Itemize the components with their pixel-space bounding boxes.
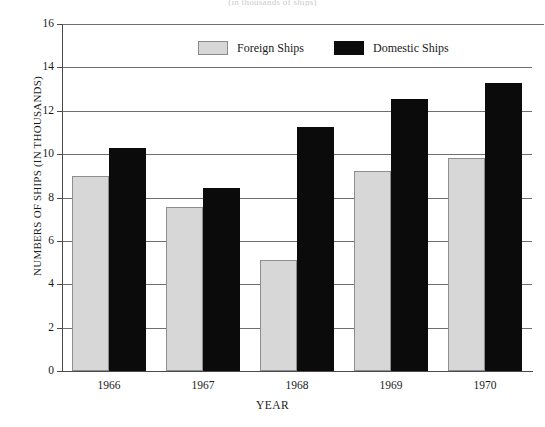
x-tick-label-1970: 1970 [450, 379, 520, 391]
y-tick-mark-14 [57, 67, 62, 68]
y-tick-label-10: 10 [14, 148, 54, 160]
legend-label-domestic: Domestic Ships [373, 41, 449, 56]
plot-area [62, 24, 532, 371]
bar-1970-foreign [448, 158, 485, 371]
chart-legend: Foreign ShipsDomestic Ships [198, 40, 449, 56]
y-axis-tick-marks [57, 24, 63, 372]
y-axis-tick-labels: 1614121086420 [10, 24, 54, 372]
bar-1968-foreign [260, 260, 297, 371]
y-tick-label-14: 14 [14, 61, 54, 73]
y-tick-label-16: 16 [14, 18, 54, 30]
y-tick-mark-8 [57, 198, 62, 199]
bar-1968-domestic [297, 127, 334, 371]
y-tick-label-2: 2 [14, 322, 54, 334]
y-tick-mark-6 [57, 241, 62, 242]
y-tick-label-0: 0 [14, 365, 54, 377]
x-axis-title: YEAR [0, 399, 545, 411]
bar-1966-foreign [72, 176, 109, 371]
y-tick-mark-4 [57, 284, 62, 285]
chart-title: (in thousands of ships) [0, 0, 545, 6]
legend-item-foreign: Foreign Ships [198, 41, 304, 56]
gridline-14 [62, 67, 532, 68]
bar-1967-domestic [203, 188, 240, 371]
legend-item-domestic: Domestic Ships [334, 41, 449, 56]
y-tick-mark-16 [57, 24, 62, 25]
x-tick-label-1966: 1966 [74, 379, 144, 391]
gridline-12 [62, 111, 532, 112]
x-tick-label-1968: 1968 [262, 379, 332, 391]
bar-chart-figure: (in thousands of ships) NUMBERS OF SHIPS… [0, 0, 545, 427]
y-tick-label-4: 4 [14, 278, 54, 290]
bar-1970-domestic [485, 83, 522, 371]
x-tick-label-1967: 1967 [168, 379, 238, 391]
y-tick-mark-12 [57, 111, 62, 112]
legend-swatch-foreign-icon [198, 41, 228, 55]
bar-1966-domestic [109, 148, 146, 371]
y-tick-mark-10 [57, 154, 62, 155]
y-tick-label-6: 6 [14, 235, 54, 247]
y-tick-mark-0 [57, 371, 62, 372]
x-tick-label-1969: 1969 [356, 379, 426, 391]
y-tick-mark-2 [57, 328, 62, 329]
x-axis-line [62, 371, 533, 372]
legend-label-foreign: Foreign Ships [237, 41, 304, 56]
bar-1969-foreign [354, 171, 391, 371]
y-tick-label-8: 8 [14, 192, 54, 204]
gridline-16 [61, 24, 544, 25]
bar-1967-foreign [166, 207, 203, 371]
legend-swatch-domestic-icon [334, 41, 364, 55]
y-tick-label-12: 12 [14, 105, 54, 117]
bar-1969-domestic [391, 99, 428, 371]
